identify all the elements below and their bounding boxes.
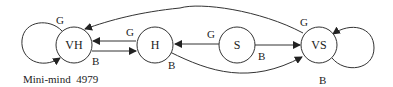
edge-label-h-to-vh: G	[126, 26, 134, 38]
edge-label-vs-to-vh: G	[300, 16, 308, 28]
edge-vh-to-h: B	[92, 51, 136, 67]
edge-vs-to-vh: G	[85, 6, 308, 33]
edge-label-vh-self: G	[56, 14, 64, 26]
node-label-vh: VH	[65, 38, 83, 52]
node-label-vs: VS	[311, 38, 326, 52]
node-vs: VS	[301, 27, 337, 63]
edge-s-to-vs: B	[255, 45, 300, 62]
node-h: H	[137, 27, 173, 63]
state-diagram: G G B G B B G B VH H	[0, 0, 393, 87]
node-vh: VH	[56, 27, 92, 63]
edge-label-h-to-vs: B	[168, 59, 175, 71]
edge-label-s-to-h: G	[207, 28, 215, 40]
edge-h-to-vh: G	[93, 26, 136, 41]
edge-label-vh-to-h: B	[92, 55, 99, 67]
diagram-caption: Mini-mind 4979	[23, 73, 99, 85]
edge-s-to-h: G	[175, 28, 219, 44]
edge-label-s-to-vs: B	[258, 50, 265, 62]
node-s: S	[219, 27, 255, 63]
node-label-h: H	[151, 38, 160, 52]
node-label-s: S	[234, 38, 241, 52]
edge-label-vs-self: B	[319, 74, 326, 86]
